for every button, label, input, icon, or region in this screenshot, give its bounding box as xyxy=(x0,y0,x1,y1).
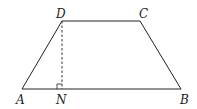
right-angle-marker xyxy=(57,84,62,89)
label-a: A xyxy=(15,93,25,107)
trapezoid-diagram: A N B D C xyxy=(0,0,197,109)
label-n: N xyxy=(55,93,67,107)
label-b: B xyxy=(179,93,189,107)
trapezoid-abcd xyxy=(22,21,181,89)
label-d: D xyxy=(55,7,66,21)
label-c: C xyxy=(139,7,148,21)
